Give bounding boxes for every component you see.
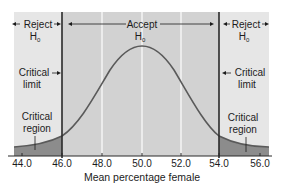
svg-text:limit: limit [238, 79, 256, 90]
x-tick-label: 50.0 [132, 158, 152, 169]
x-tick-label: 54.0 [209, 158, 229, 169]
svg-text:Critical: Critical [228, 112, 259, 123]
svg-text:region: region [229, 124, 257, 135]
x-tick-label: 46.0 [52, 158, 72, 169]
x-tick-label: 48.0 [92, 158, 112, 169]
hypothesis-test-chart: 44.0 46.0 48.0 50.0 52.0 54.0 56.0 Mean … [0, 0, 284, 188]
svg-text:Accept: Accept [127, 19, 158, 30]
svg-text:Reject: Reject [232, 19, 261, 30]
x-tick-label: 44.0 [12, 158, 32, 169]
svg-text:Reject: Reject [24, 19, 53, 30]
svg-text:Critical: Critical [235, 67, 266, 78]
svg-text:region: region [23, 123, 51, 134]
x-tick-label: 52.0 [171, 158, 191, 169]
x-axis-label: Mean percentage female [84, 171, 200, 183]
svg-text:Critical: Critical [22, 111, 53, 122]
x-tick-label: 56.0 [250, 158, 270, 169]
svg-text:limit: limit [23, 79, 41, 90]
svg-text:Critical: Critical [19, 67, 50, 78]
